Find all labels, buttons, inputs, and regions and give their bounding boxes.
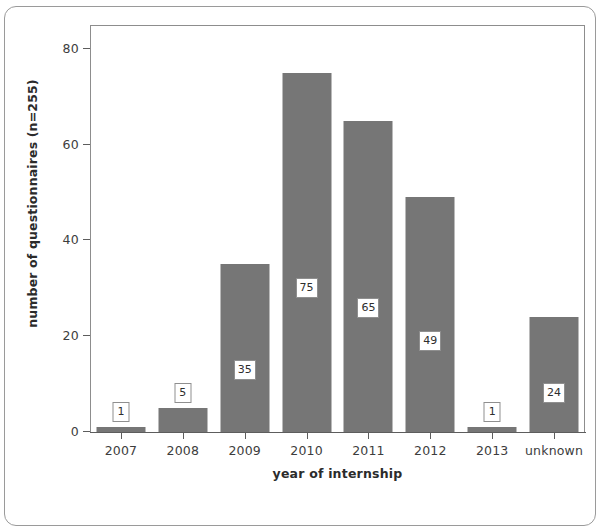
bar-value-label: 1 [484,402,501,422]
bar-slot: 65 [338,25,400,432]
x-axis-line [90,432,586,433]
bar-value-label: 1 [112,402,129,422]
y-tick-mark [83,144,90,145]
bar-value-label: 24 [543,383,565,403]
x-tick-mark [492,432,493,439]
bar-slot: 1 [461,25,523,432]
x-tick-mark [121,432,122,439]
bar-value-label: 35 [234,360,256,380]
bar[interactable] [96,427,145,432]
bar-value-label: 5 [174,383,191,403]
y-tick-label: 40 [62,231,79,248]
y-tick-label: 0 [71,423,79,440]
bar-value-label: 65 [357,298,379,318]
bar-slot: 35 [214,25,276,432]
bar-slot: 49 [399,25,461,432]
y-tick-label: 60 [62,136,79,153]
bar[interactable] [220,264,269,432]
x-tick-mark [554,432,555,439]
x-tick-mark [245,432,246,439]
x-tick-label: unknown [509,443,599,458]
y-tick-mark [83,335,90,336]
y-tick-label: 80 [62,40,79,57]
bar-value-label: 75 [296,278,318,298]
y-tick-mark [83,239,90,240]
bars-layer: 1535756549124 [90,25,585,432]
bar[interactable] [530,317,579,432]
bar[interactable] [406,197,455,432]
y-tick-mark [83,431,90,432]
bar[interactable] [344,121,393,432]
x-tick-mark [430,432,431,439]
x-tick-mark [368,432,369,439]
bar[interactable] [282,73,331,432]
x-tick-mark [183,432,184,439]
bar[interactable] [158,408,207,432]
y-tick-mark [83,48,90,49]
bar-value-label: 49 [419,331,441,351]
y-axis-title: number of questionnaires (n=255) [25,54,40,354]
y-tick-label: 20 [62,327,79,344]
x-tick-mark [307,432,308,439]
bar-slot: 75 [276,25,338,432]
bar[interactable] [468,427,517,432]
x-axis-title: year of internship [90,466,585,481]
bar-slot: 24 [523,25,585,432]
bar-slot: 5 [152,25,214,432]
bar-slot: 1 [90,25,152,432]
